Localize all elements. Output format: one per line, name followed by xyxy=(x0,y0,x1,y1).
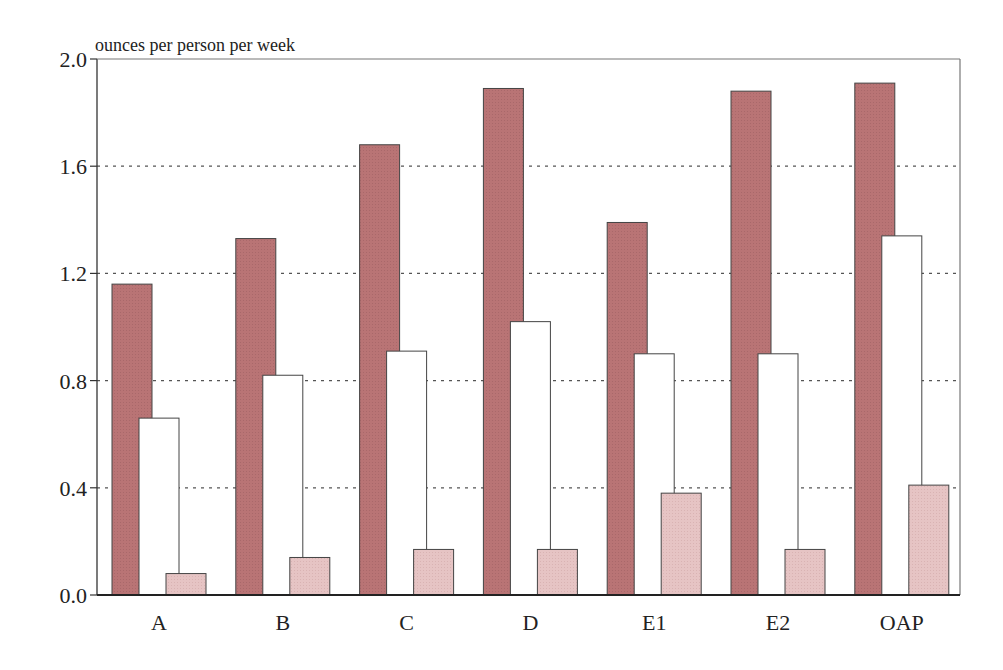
bar-white xyxy=(139,418,179,595)
x-category-label: A xyxy=(151,610,167,635)
bar-light xyxy=(290,557,330,595)
y-tick-label: 1.6 xyxy=(60,154,88,179)
x-category-label: D xyxy=(522,610,538,635)
x-category-label: E1 xyxy=(642,610,666,635)
x-category-label: OAP xyxy=(880,610,924,635)
bar-light xyxy=(909,485,949,595)
bar-light xyxy=(414,549,454,595)
bar-light xyxy=(785,549,825,595)
bar-light xyxy=(166,574,206,595)
y-tick-label: 0.4 xyxy=(60,476,88,501)
y-tick-label: 0.8 xyxy=(60,369,88,394)
x-category-label: C xyxy=(399,610,414,635)
bars xyxy=(112,83,949,595)
y-tick-label: 0.0 xyxy=(60,583,88,608)
x-category-label: B xyxy=(275,610,290,635)
bar-chart: 0.00.40.81.21.62.0ABCDE1E2OAP ounces per… xyxy=(0,0,1003,670)
y-tick-label: 2.0 xyxy=(60,47,88,72)
bar-light xyxy=(661,493,701,595)
bar-light xyxy=(537,549,577,595)
y-axis-unit-label: ounces per person per week xyxy=(95,35,295,55)
y-tick-label: 1.2 xyxy=(60,261,88,286)
x-category-label: E2 xyxy=(766,610,790,635)
